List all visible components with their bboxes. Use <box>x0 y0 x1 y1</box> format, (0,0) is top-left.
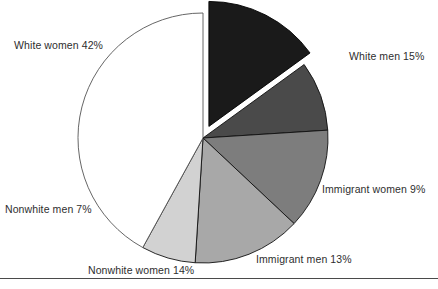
pie-label-white-men: White men 15% <box>349 50 424 63</box>
pie-label-immigrant-women: Immigrant women 9% <box>322 183 425 196</box>
pie-label-white-women: White women 42% <box>14 39 103 52</box>
pie-slice-group <box>78 1 328 263</box>
pie-label-immigrant-men: Immigrant men 13% <box>256 253 352 266</box>
pie-chart-figure: White women 42% White men 15% Immigrant … <box>0 0 438 289</box>
pie-label-nonwhite-women: Nonwhite women 14% <box>88 264 194 277</box>
footer-rule <box>0 278 438 279</box>
pie-label-nonwhite-men: Nonwhite men 7% <box>5 203 92 216</box>
